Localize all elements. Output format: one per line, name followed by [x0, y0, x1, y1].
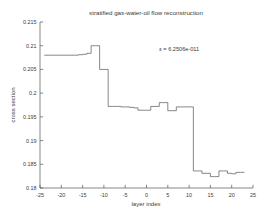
x-tick-label: -15: [79, 192, 87, 198]
x-tick-label: -20: [57, 192, 65, 198]
chart-svg: stratified gas-water-oil flow reconstruc…: [0, 0, 270, 215]
data-series-group: [44, 46, 244, 177]
x-tick-label: 20: [229, 192, 235, 198]
data-series-line: [44, 46, 244, 177]
x-axis-label: layer index: [131, 201, 160, 207]
annotations-group: ε = 6.2506e-011: [159, 46, 199, 52]
y-tick-label: 0.18: [26, 185, 37, 191]
y-tick-label: 0.205: [23, 66, 37, 72]
x-tick-label: 25: [250, 192, 256, 198]
residual-annotation: ε = 6.2506e-011: [159, 46, 199, 52]
y-tick-label: 0.19: [26, 138, 37, 144]
axes-frame: [40, 22, 253, 188]
x-tick-label: -10: [100, 192, 108, 198]
x-tick-label: 10: [186, 192, 192, 198]
y-tick-label: 0.2: [29, 90, 37, 96]
y-axis-label: cross section: [10, 87, 16, 122]
figure-canvas: stratified gas-water-oil flow reconstruc…: [0, 0, 270, 215]
x-tick-label: 0: [145, 192, 148, 198]
x-tick-label: -25: [36, 192, 44, 198]
y-tick-label: 0.185: [23, 161, 37, 167]
x-axis-ticks: -25-20-15-10-50510152025: [36, 185, 256, 198]
x-tick-label: 15: [207, 192, 213, 198]
y-tick-label: 0.195: [23, 114, 37, 120]
x-tick-label: -5: [123, 192, 128, 198]
y-tick-label: 0.21: [26, 43, 37, 49]
x-tick-label: 5: [166, 192, 169, 198]
chart-title: stratified gas-water-oil flow reconstruc…: [89, 9, 203, 16]
y-tick-label: 0.215: [23, 19, 37, 25]
